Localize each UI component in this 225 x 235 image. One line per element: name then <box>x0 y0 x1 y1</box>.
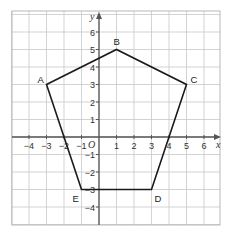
y-tick-label: −2 <box>85 168 95 178</box>
vertex-label-c: C <box>191 74 198 85</box>
y-tick-label: 5 <box>90 45 95 55</box>
y-tick-label: −4 <box>85 203 95 213</box>
y-axis-arrow-icon <box>96 12 102 19</box>
x-tick-label: 1 <box>114 141 119 151</box>
y-tick-label: 1 <box>90 115 95 125</box>
x-tick-label: −4 <box>24 141 34 151</box>
x-axis-label: x <box>215 139 221 150</box>
y-tick-label: 4 <box>90 63 95 73</box>
x-tick-label: 5 <box>184 141 189 151</box>
y-axis-label: y <box>89 11 95 22</box>
x-tick-label: −3 <box>41 141 51 151</box>
vertex-label-a: A <box>38 74 45 85</box>
vertex-label-d: D <box>155 193 162 204</box>
origin-label: O <box>88 139 95 150</box>
y-tick-label: 6 <box>90 28 95 38</box>
x-tick-label: 6 <box>201 141 206 151</box>
x-tick-label: 2 <box>131 141 136 151</box>
x-tick-label: 3 <box>149 141 154 151</box>
coordinate-plane: xyO−4−3−2−1123456654321−1−2−3−4ABCDE <box>0 0 225 235</box>
y-tick-label: −1 <box>85 150 95 160</box>
vertex-label-e: E <box>73 193 79 204</box>
y-tick-label: 3 <box>90 80 95 90</box>
y-tick-label: 2 <box>90 98 95 108</box>
vertex-label-b: B <box>114 36 120 47</box>
